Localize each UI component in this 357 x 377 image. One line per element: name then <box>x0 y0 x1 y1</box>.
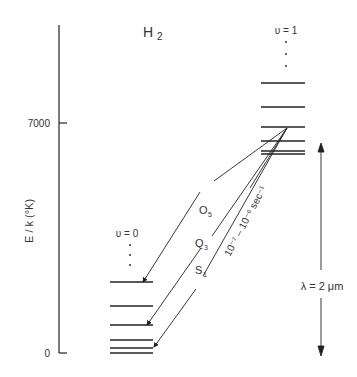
tick-label-7000: 7000 <box>28 118 51 129</box>
transition-arrows <box>143 128 287 347</box>
lifetime-label: 10⁻⁷ – 10⁻⁶ sec⁻¹ <box>222 184 269 258</box>
label-q3: Q <box>195 237 204 249</box>
lower-state-levels <box>110 282 153 353</box>
lower-state-label: υ = 0 <box>116 228 139 239</box>
upper-state-label: υ = 1 <box>275 25 298 36</box>
tick-label-0: 0 <box>44 348 50 359</box>
label-s1-sub: 1 <box>203 271 207 278</box>
label-q3-sub: 3 <box>204 244 208 251</box>
label-s1: S <box>195 264 202 276</box>
arrow-q3 <box>147 128 287 325</box>
energy-axis <box>59 25 67 353</box>
arrow-s1-upper <box>250 128 287 188</box>
upper-state-levels <box>261 83 305 154</box>
wavelength-label: λ = 2 μm <box>301 280 344 292</box>
upper-state-dots <box>285 41 287 67</box>
title-h: H <box>143 24 153 40</box>
wavelength-arrow <box>318 143 324 356</box>
energy-level-diagram: 7000 0 E / k (°K) H 2 υ = 1 υ = 0 <box>0 0 357 377</box>
label-o5-sub: 5 <box>208 211 212 218</box>
axis-label: E / k (°K) <box>23 199 35 243</box>
label-o5: O <box>199 204 208 216</box>
title-subscript: 2 <box>157 31 163 42</box>
lower-state-dots <box>129 244 131 266</box>
